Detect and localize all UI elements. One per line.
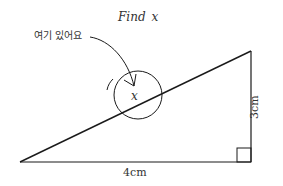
title-word: Find xyxy=(117,10,146,24)
title-find: Find x xyxy=(117,10,158,24)
horizontal-side-label: 4cm xyxy=(123,166,147,179)
annotation-text: 여기 있어요 xyxy=(34,30,82,41)
vertical-side-label: 3cm xyxy=(248,95,261,119)
triangle-diagram: Find x 여기 있어요 x 3cm 4cm xyxy=(0,0,283,186)
arrow-head-icon xyxy=(124,74,136,86)
hypotenuse xyxy=(20,51,251,162)
motion-stroke-icon xyxy=(107,79,113,90)
title-variable: x xyxy=(151,10,158,24)
variable-x-label: x xyxy=(131,89,138,103)
highlight-circle xyxy=(114,71,162,119)
annotation-arrow-line xyxy=(90,37,134,86)
right-angle-marker xyxy=(237,148,251,162)
diagram-canvas: Find x 여기 있어요 x 3cm 4cm xyxy=(0,0,283,186)
